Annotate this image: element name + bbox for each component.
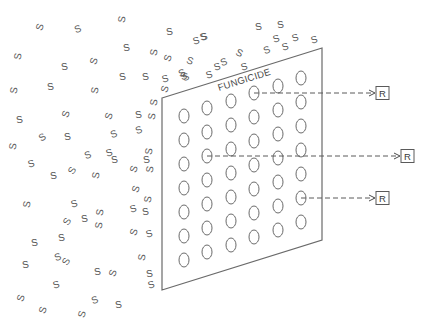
- pore: [226, 190, 236, 204]
- spore-s: S: [104, 146, 114, 158]
- spore-s: S: [66, 164, 79, 176]
- fungicide-diagram: SSSSSSSSSSSSSSSSSSSSSSSSSSSSSSSSSSSSSSSS…: [0, 0, 430, 327]
- spore-s: S: [15, 114, 24, 126]
- pore: [296, 95, 306, 109]
- spore-s: S: [144, 165, 156, 174]
- spore-s: S: [26, 157, 36, 169]
- spore-s: S: [141, 71, 150, 83]
- pore: [296, 167, 306, 181]
- spore-s: S: [118, 71, 127, 83]
- pore: [296, 143, 306, 157]
- resistant-passage: R: [301, 192, 389, 205]
- spore-s: S: [75, 309, 87, 319]
- pore: [179, 181, 189, 195]
- pore: [273, 151, 283, 165]
- spore-s: S: [46, 81, 55, 93]
- spore-s: S: [30, 237, 39, 249]
- spore-s: S: [127, 163, 140, 173]
- pore: [296, 71, 306, 85]
- spore-s: S: [14, 292, 27, 302]
- spore-s: S: [262, 43, 272, 56]
- pore: [179, 205, 189, 219]
- spore-s: S: [7, 142, 19, 151]
- spore-s: S: [144, 227, 154, 239]
- spore-s: S: [290, 31, 300, 43]
- pore: [179, 253, 189, 267]
- spore-s: S: [146, 278, 156, 290]
- spore-s: S: [83, 148, 93, 161]
- spore-s: S: [21, 259, 30, 271]
- resistant-label: R: [404, 151, 411, 162]
- spore-s: S: [148, 48, 160, 57]
- spore-s: S: [276, 19, 285, 31]
- spore-s: S: [129, 183, 142, 193]
- pore: [296, 215, 306, 229]
- spore-s: S: [37, 130, 49, 143]
- spore-s: S: [116, 15, 128, 24]
- spore-s: S: [134, 109, 143, 121]
- pore: [249, 230, 259, 244]
- spore-s: S: [63, 131, 72, 143]
- spore-s: S: [109, 127, 119, 140]
- pore: [273, 199, 283, 213]
- pore: [226, 166, 236, 180]
- pore: [249, 182, 259, 196]
- resistant-passage: R: [207, 150, 414, 163]
- spore-s: S: [160, 72, 170, 84]
- spore-s: S: [106, 267, 119, 277]
- pore: [179, 157, 189, 171]
- pore-grid: [179, 71, 306, 267]
- spore-s: S: [89, 86, 101, 95]
- spore-s: S: [94, 208, 106, 217]
- fungicide-panel: FUNGICIDE: [162, 48, 322, 290]
- pore: [202, 125, 212, 139]
- spore-s: S: [142, 195, 154, 204]
- pore: [202, 245, 212, 259]
- pore: [179, 229, 189, 243]
- spore-s: S: [80, 213, 89, 225]
- spore-s: S: [90, 171, 102, 180]
- spore-s: S: [69, 197, 79, 209]
- pore: [202, 173, 212, 187]
- spore-s: S: [271, 32, 281, 44]
- pore: [226, 238, 236, 252]
- spore-s: S: [36, 304, 49, 314]
- spore-s: S: [141, 206, 150, 218]
- pore: [273, 127, 283, 141]
- spore-s: S: [12, 52, 24, 61]
- spore-s: S: [49, 170, 58, 182]
- spore-s: S: [122, 42, 131, 54]
- spore-s: S: [204, 68, 214, 80]
- spore-s: S: [57, 232, 66, 244]
- spore-s: S: [309, 33, 319, 45]
- resistant-label: R: [379, 193, 386, 204]
- spore-s: S: [128, 202, 138, 214]
- spore-s: S: [93, 221, 105, 230]
- spore-s: S: [280, 40, 290, 52]
- pore: [226, 118, 236, 132]
- pore: [226, 94, 236, 108]
- spore-s: S: [127, 226, 140, 236]
- pore: [249, 134, 259, 148]
- pore: [202, 101, 212, 115]
- spore-s: S: [51, 278, 61, 290]
- spore-s: S: [136, 253, 148, 262]
- pore: [273, 79, 283, 93]
- spore-s: S: [61, 215, 74, 227]
- pore: [202, 221, 212, 235]
- spore-s: S: [185, 54, 195, 67]
- spore-s: S: [33, 21, 46, 31]
- spore-s: S: [21, 200, 33, 209]
- pore: [273, 175, 283, 189]
- pore: [249, 158, 259, 172]
- pore: [249, 110, 259, 124]
- spore-s: S: [161, 52, 174, 62]
- resistant-passages: RRR: [207, 87, 414, 205]
- pore: [179, 109, 189, 123]
- spore-s: S: [73, 22, 83, 35]
- spore-s: S: [114, 299, 123, 311]
- spore-s: S: [59, 108, 72, 118]
- spore-cloud: SSSSSSSSSSSSSSSSSSSSSSSSSSSSSSSSSSSSSSSS…: [7, 15, 319, 319]
- spore-s: S: [254, 21, 263, 33]
- pore: [226, 142, 236, 156]
